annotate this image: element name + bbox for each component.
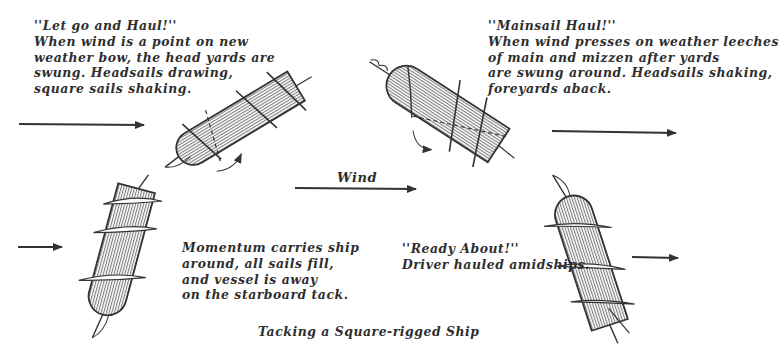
wind-label: Wind (337, 170, 377, 185)
caption-ready-about: ''Ready About!'' Driver hauled amidships… (402, 241, 590, 273)
wind-arrow-top-left (19, 124, 144, 125)
caption-line: weather bow, the head yards are (34, 50, 275, 66)
caption-mainsail-haul: ''Mainsail Haul!'' When wind presses on … (488, 18, 779, 97)
caption-line: are swung around. Headsails shaking, (488, 65, 779, 81)
caption-line: Driver hauled amidships. (402, 257, 590, 273)
wind-arrow-center (295, 188, 416, 189)
wind-arrow-bottom-right (632, 257, 678, 258)
caption-line: of main and mizzen after yards (488, 50, 779, 66)
caption-line: Momentum carries ship (182, 240, 360, 256)
caption-momentum: Momentum carries ship around, all sails … (182, 240, 360, 303)
diagram-title: Tacking a Square-rigged Ship (258, 324, 480, 339)
caption-line: When wind is a point on new (34, 34, 275, 50)
caption-line: ''Let go and Haul!'' (34, 18, 275, 34)
caption-line: on the starboard tack. (182, 287, 360, 303)
caption-line: foreyards aback. (488, 81, 779, 97)
wind-arrow-top-right (552, 131, 676, 133)
caption-line: When wind presses on weather leeches (488, 34, 779, 50)
ship-momentum (65, 164, 171, 347)
caption-line: swung. Headsails drawing, (34, 65, 275, 81)
caption-line: around, all sails fill, (182, 256, 360, 272)
caption-line: ''Ready About!'' (402, 241, 590, 257)
caption-line: square sails shaking. (34, 81, 275, 97)
caption-line: and vessel is away (182, 272, 360, 288)
caption-let-go-and-haul: ''Let go and Haul!'' When wind is a poin… (34, 18, 275, 97)
caption-line: ''Mainsail Haul!'' (488, 18, 779, 34)
